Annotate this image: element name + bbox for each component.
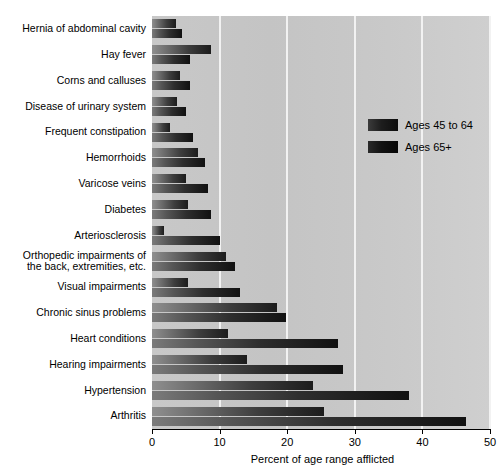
bar-ages-65-plus bbox=[152, 210, 211, 219]
bar-group bbox=[152, 303, 490, 322]
category-label: Diabetes bbox=[0, 204, 146, 216]
category-label: Chronic sinus problems bbox=[0, 307, 146, 319]
x-axis-line bbox=[152, 429, 491, 430]
x-tick-mark-50 bbox=[490, 429, 491, 434]
bar-ages-45-64 bbox=[152, 71, 180, 80]
bar-ages-65-plus bbox=[152, 365, 343, 374]
x-tick-mark-30 bbox=[355, 429, 356, 434]
bar-ages-65-plus bbox=[152, 236, 220, 245]
bar-ages-45-64 bbox=[152, 226, 164, 235]
x-tick-label-20: 20 bbox=[281, 436, 293, 448]
category-label: Hemorrhoids bbox=[0, 152, 146, 164]
category-label: Varicose veins bbox=[0, 178, 146, 190]
x-tick-label-30: 30 bbox=[349, 436, 361, 448]
category-label: Hernia of abdominal cavity bbox=[0, 23, 146, 35]
x-tick-label-10: 10 bbox=[213, 436, 225, 448]
bar-ages-45-64 bbox=[152, 329, 228, 338]
bar-chart: Hernia of abdominal cavityHay feverCorns… bbox=[0, 0, 499, 476]
bar-ages-65-plus bbox=[152, 262, 235, 271]
bar-group bbox=[152, 97, 490, 116]
category-label: Corns and calluses bbox=[0, 75, 146, 87]
x-tick-label-0: 0 bbox=[149, 436, 155, 448]
bar-group bbox=[152, 71, 490, 90]
legend-label-ages-45-64: Ages 45 to 64 bbox=[405, 119, 473, 131]
chart-legend: Ages 45 to 64 Ages 65+ bbox=[368, 116, 494, 160]
bar-ages-65-plus bbox=[152, 288, 240, 297]
x-tick-label-40: 40 bbox=[416, 436, 428, 448]
x-tick-mark-40 bbox=[422, 429, 423, 434]
bar-group bbox=[152, 200, 490, 219]
legend-swatch-ages-65-plus-icon bbox=[368, 141, 398, 153]
x-tick-mark-0 bbox=[152, 429, 153, 434]
x-tick-mark-20 bbox=[287, 429, 288, 434]
bar-ages-65-plus bbox=[152, 339, 338, 348]
legend-swatch-ages-45-64-icon bbox=[368, 119, 398, 131]
bar-group bbox=[152, 381, 490, 400]
bar-ages-45-64 bbox=[152, 174, 186, 183]
bar-ages-45-64 bbox=[152, 123, 170, 132]
bar-ages-45-64 bbox=[152, 252, 226, 261]
bar-ages-65-plus bbox=[152, 55, 190, 64]
bar-group bbox=[152, 329, 490, 348]
category-label: Hypertension bbox=[0, 385, 146, 397]
legend-item-ages-65-plus: Ages 65+ bbox=[368, 138, 494, 155]
category-label: Orthopedic impairments of the back, extr… bbox=[0, 250, 146, 273]
bar-ages-45-64 bbox=[152, 303, 277, 312]
bar-group bbox=[152, 174, 490, 193]
bar-group bbox=[152, 407, 490, 426]
x-axis-title-text: Percent of age range afflicted bbox=[251, 453, 395, 465]
x-axis-title: Percent of age range afflicted bbox=[0, 453, 499, 465]
bar-ages-45-64 bbox=[152, 381, 313, 390]
bar-group bbox=[152, 252, 490, 271]
category-label: Frequent constipation bbox=[0, 126, 146, 138]
bars-layer bbox=[152, 16, 490, 429]
bar-group bbox=[152, 19, 490, 38]
bar-ages-65-plus bbox=[152, 391, 409, 400]
bar-group bbox=[152, 45, 490, 64]
bar-ages-45-64 bbox=[152, 148, 198, 157]
category-label: Arthritis bbox=[0, 410, 146, 422]
bar-ages-45-64 bbox=[152, 278, 188, 287]
plot-area bbox=[152, 16, 490, 429]
bar-ages-65-plus bbox=[152, 184, 208, 193]
bar-ages-45-64 bbox=[152, 45, 211, 54]
bar-ages-65-plus bbox=[152, 133, 193, 142]
category-label: Hearing impairments bbox=[0, 359, 146, 371]
legend-label-ages-65-plus: Ages 65+ bbox=[405, 141, 452, 153]
bar-group bbox=[152, 278, 490, 297]
category-label: Arteriosclerosis bbox=[0, 230, 146, 242]
bar-ages-65-plus bbox=[152, 107, 186, 116]
bar-ages-45-64 bbox=[152, 200, 188, 209]
bar-ages-65-plus bbox=[152, 417, 466, 426]
category-label: Disease of urinary system bbox=[0, 101, 146, 113]
bar-group bbox=[152, 226, 490, 245]
bar-ages-45-64 bbox=[152, 407, 324, 416]
bar-group bbox=[152, 355, 490, 374]
x-tick-label-50: 50 bbox=[484, 436, 496, 448]
category-label: Visual impairments bbox=[0, 281, 146, 293]
bar-ages-65-plus bbox=[152, 313, 286, 322]
category-axis-labels: Hernia of abdominal cavityHay feverCorns… bbox=[0, 16, 146, 429]
category-label: Hay fever bbox=[0, 49, 146, 61]
legend-item-ages-45-64: Ages 45 to 64 bbox=[368, 116, 494, 133]
bar-ages-65-plus bbox=[152, 29, 182, 38]
bar-ages-65-plus bbox=[152, 81, 190, 90]
x-tick-mark-10 bbox=[220, 429, 221, 434]
bar-ages-45-64 bbox=[152, 19, 176, 28]
bar-ages-45-64 bbox=[152, 355, 247, 364]
category-label: Heart conditions bbox=[0, 333, 146, 345]
bar-ages-45-64 bbox=[152, 97, 177, 106]
bar-ages-65-plus bbox=[152, 158, 205, 167]
